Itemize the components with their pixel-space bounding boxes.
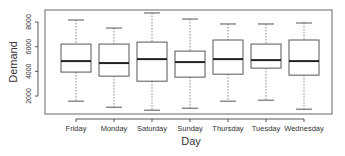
- box-saturday: [137, 13, 167, 110]
- box-tuesday: [251, 24, 281, 100]
- x-tick-label: Wednesday: [284, 124, 324, 133]
- x-tick-label: Sunday: [177, 124, 203, 133]
- boxplot-chart: 2000400060008000 FridayMondaySaturdaySun…: [0, 0, 345, 156]
- y-tick-label: 6000: [25, 39, 32, 55]
- x-axis-label: Day: [181, 135, 201, 147]
- iqr-box: [175, 51, 205, 77]
- y-tick-label: 8000: [25, 14, 32, 30]
- y-axis-label: Demand: [7, 41, 19, 83]
- x-tick-label: Monday: [101, 124, 128, 133]
- y-tick-label: 4000: [25, 63, 32, 79]
- iqr-box: [99, 44, 129, 76]
- x-tick-label: Friday: [66, 124, 87, 133]
- boxes: [61, 13, 319, 110]
- box-monday: [99, 28, 129, 107]
- box-thursday: [213, 24, 243, 101]
- box-sunday: [175, 19, 205, 108]
- iqr-box: [213, 40, 243, 74]
- box-wednesday: [289, 23, 319, 109]
- y-tick-label: 2000: [25, 88, 32, 104]
- x-tick-label: Tuesday: [252, 124, 281, 133]
- iqr-box: [61, 44, 91, 72]
- x-tick-label: Saturday: [137, 124, 167, 133]
- y-axis: 2000400060008000: [25, 14, 38, 104]
- x-axis: FridayMondaySaturdaySundayThursdayTuesda…: [66, 119, 324, 133]
- box-friday: [61, 20, 91, 101]
- iqr-box: [251, 44, 281, 68]
- x-tick-label: Thursday: [212, 124, 244, 133]
- iqr-box: [289, 40, 319, 75]
- iqr-box: [137, 42, 167, 81]
